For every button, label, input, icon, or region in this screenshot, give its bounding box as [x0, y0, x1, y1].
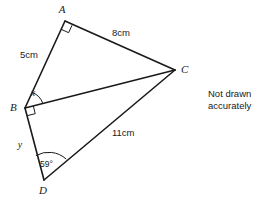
vertex-label-C: C [181, 63, 189, 75]
geometry-figure: A B C D 5cm 8cm 11cm x y 59° Not drawn a… [0, 0, 264, 199]
angle-label-59deg: 59° [40, 159, 53, 169]
vertex-label-A: A [58, 3, 66, 15]
angle-label-y: y [17, 139, 23, 150]
side-label-AB: 5cm [20, 49, 38, 60]
vertex-label-D: D [38, 184, 47, 196]
side-label-AC: 8cm [112, 27, 130, 38]
not-drawn-accurately-note-line-1: Not drawn [208, 88, 251, 100]
edge-BD [25, 108, 44, 180]
angle-label-x: x [30, 87, 36, 98]
side-label-DC: 11cm [112, 127, 135, 138]
not-drawn-accurately-note-line-2: accurately [208, 100, 251, 112]
vertex-label-B: B [10, 101, 17, 113]
